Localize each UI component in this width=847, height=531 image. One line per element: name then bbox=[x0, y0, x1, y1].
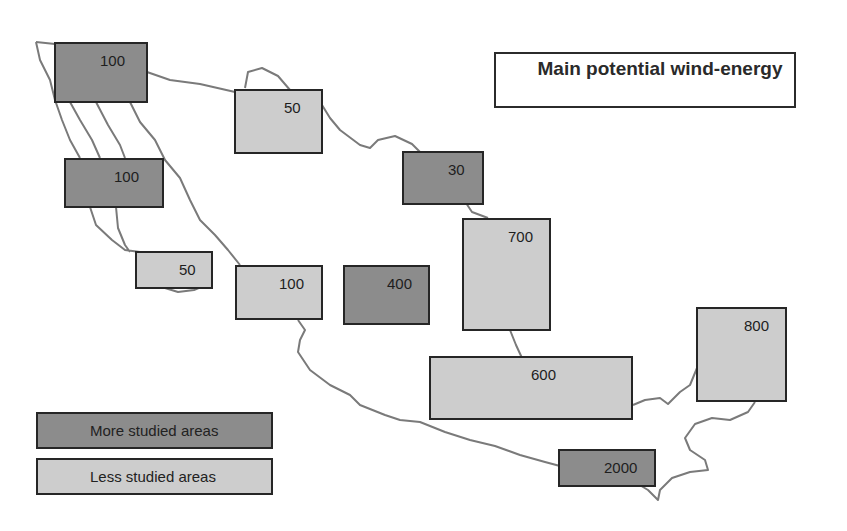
region-value: 400 bbox=[387, 275, 412, 292]
region-box-baja-central: 100 bbox=[64, 158, 164, 208]
region-box-tamaulipas: 700 bbox=[462, 218, 551, 331]
region-value: 700 bbox=[508, 228, 533, 245]
region-value: 50 bbox=[284, 99, 301, 116]
region-value: 30 bbox=[448, 161, 465, 178]
region-box-sonora: 50 bbox=[234, 89, 323, 154]
region-value: 100 bbox=[114, 168, 139, 185]
legend-less-studied: Less studied areas bbox=[36, 458, 273, 495]
region-box-yucatan: 800 bbox=[696, 307, 787, 402]
region-value: 50 bbox=[179, 261, 196, 278]
region-value: 2000 bbox=[604, 459, 637, 476]
region-box-baja-south: 50 bbox=[135, 251, 213, 289]
region-box-veracruz: 600 bbox=[429, 356, 633, 420]
region-box-sinaloa: 100 bbox=[235, 265, 323, 320]
region-box-baja-north: 100 bbox=[54, 42, 148, 103]
map-title: Main potential wind-energy bbox=[494, 52, 796, 108]
legend-more-studied: More studied areas bbox=[36, 412, 273, 449]
region-value: 800 bbox=[744, 317, 769, 334]
region-box-oaxaca: 2000 bbox=[558, 449, 656, 487]
region-value: 600 bbox=[531, 366, 556, 383]
region-box-coahuila: 30 bbox=[402, 151, 484, 205]
region-value: 100 bbox=[100, 52, 125, 69]
region-value: 100 bbox=[279, 275, 304, 292]
region-box-central: 400 bbox=[343, 265, 430, 325]
